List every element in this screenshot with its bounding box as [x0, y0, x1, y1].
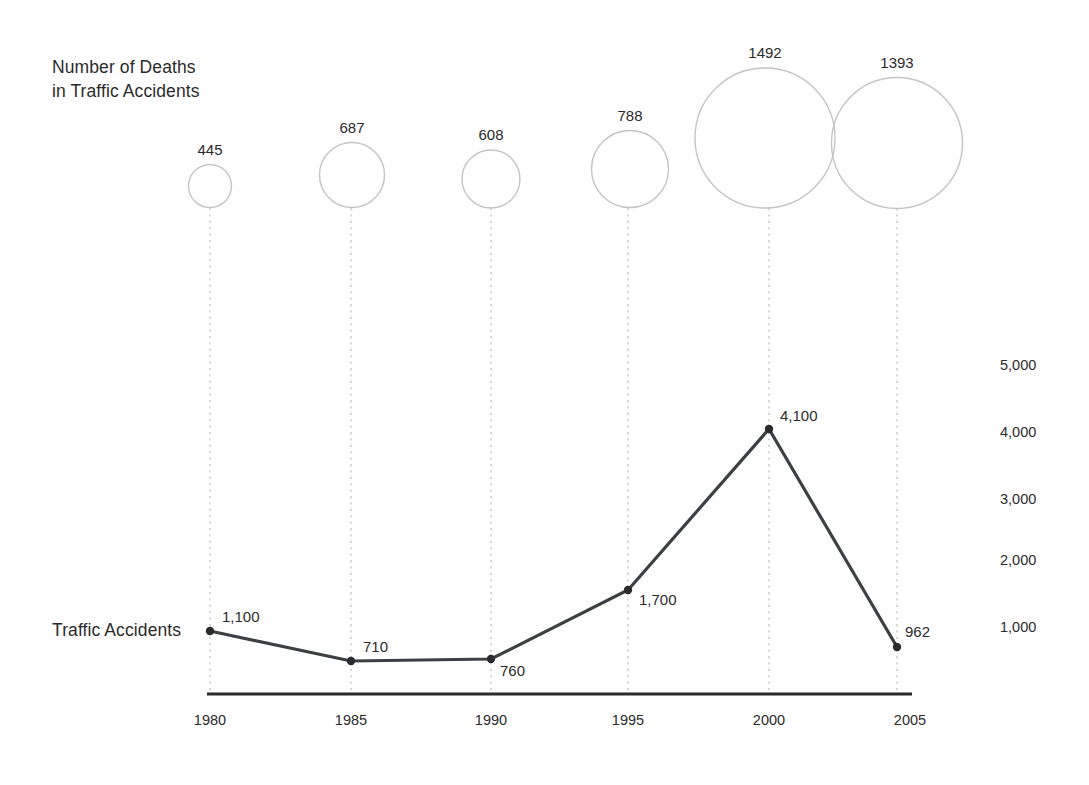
- x-axis-tick-label: 1985: [335, 712, 367, 728]
- bubble-mark: [592, 131, 669, 208]
- bubble-mark: [695, 68, 835, 208]
- bubble-mark: [832, 78, 963, 209]
- line-value-label: 4,100: [780, 407, 818, 424]
- plot-area: [0, 0, 1089, 785]
- line-value-label: 1,100: [222, 608, 260, 625]
- line-mark: [210, 429, 897, 661]
- data-point[interactable]: [893, 643, 901, 651]
- data-point[interactable]: [765, 425, 773, 433]
- y-axis-tick-label: 1,000: [1000, 619, 1036, 635]
- y-axis-tick-label: 4,000: [1000, 424, 1036, 440]
- bubble-value-label: 788: [617, 107, 642, 124]
- y-axis-tick-label: 3,000: [1000, 491, 1036, 507]
- bubble-value-label: 608: [478, 126, 503, 143]
- bubble-value-label: 1393: [880, 54, 913, 71]
- x-axis-tick-label: 2005: [894, 712, 926, 728]
- data-point[interactable]: [487, 655, 495, 663]
- line-value-label: 710: [363, 638, 388, 655]
- y-axis-tick-label: 5,000: [1000, 357, 1036, 373]
- bubble-value-label: 445: [197, 141, 222, 158]
- gridlines: [210, 208, 897, 694]
- chart-container: Number of Deaths in Traffic Accidents Tr…: [0, 0, 1089, 785]
- x-axis-tick-label: 1995: [612, 712, 644, 728]
- bubble-mark: [462, 150, 520, 208]
- bubble-value-label: 1492: [748, 44, 781, 61]
- bubble-marks: [189, 68, 963, 209]
- y-axis-tick-label: 2,000: [1000, 552, 1036, 568]
- data-point[interactable]: [206, 627, 214, 635]
- line-value-label: 760: [500, 662, 525, 679]
- x-axis-tick-label: 1980: [194, 712, 226, 728]
- data-point[interactable]: [624, 586, 632, 594]
- x-axis-tick-label: 2000: [753, 712, 785, 728]
- data-point[interactable]: [347, 657, 355, 665]
- line-value-label: 962: [905, 623, 930, 640]
- bubble-value-label: 687: [339, 119, 364, 136]
- bubble-mark: [189, 165, 232, 208]
- x-axis-tick-label: 1990: [475, 712, 507, 728]
- bubble-mark: [320, 143, 385, 208]
- series-line: [210, 429, 897, 661]
- line-value-label: 1,700: [639, 591, 677, 608]
